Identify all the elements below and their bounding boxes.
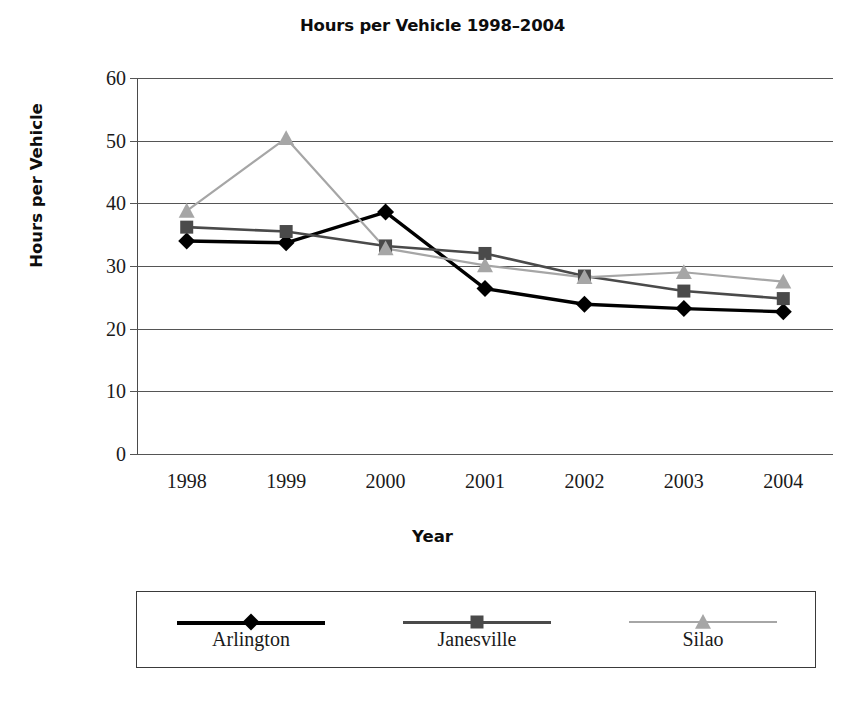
y-axis-tick [130,141,137,142]
x-axis-tick-label: 1999 [241,470,331,493]
plot-area [137,78,833,454]
chart-title: Hours per Vehicle 1998–2004 [0,16,865,35]
y-axis-tick [130,329,137,330]
legend-item-arlington[interactable]: Arlington [151,598,351,660]
y-axis-tick-label: 20 [80,317,126,340]
x-axis-tick-label: 1998 [142,470,232,493]
data-point-marker [178,232,195,249]
chart-page: Hours per Vehicle 1998–2004 Hours per Ve… [0,0,865,702]
y-axis-tick [130,391,137,392]
data-point-marker [775,303,792,320]
legend: ArlingtonJanesvilleSilao [136,591,816,668]
data-point-marker [179,203,195,218]
y-axis-tick-label: 0 [80,443,126,466]
x-axis-tick-label: 2001 [440,470,530,493]
legend-label: Janesville [377,628,577,651]
y-axis-tick [130,454,137,455]
x-axis-tick-label: 2002 [539,470,629,493]
legend-label: Arlington [151,628,351,651]
y-axis-tick-label: 60 [80,67,126,90]
y-axis-tick [130,203,137,204]
x-axis-title: Year [0,527,865,546]
y-axis-tick-label: 30 [80,255,126,278]
x-axis-tick-label: 2004 [738,470,828,493]
data-point-marker [278,130,294,145]
y-axis-tick-label: 10 [80,380,126,403]
y-axis-tick [130,266,137,267]
legend-label: Silao [603,628,803,651]
y-axis-tick-label: 50 [80,129,126,152]
series-plot [137,78,833,454]
data-point-marker [280,225,293,238]
x-axis-tick-label: 2000 [341,470,431,493]
legend-item-silao[interactable]: Silao [603,598,803,660]
data-point-marker [576,296,593,313]
data-point-marker [471,616,484,629]
x-axis-tick-label: 2003 [639,470,729,493]
data-point-marker [677,285,690,298]
data-point-marker [675,300,692,317]
y-axis-title: Hours per Vehicle [27,86,46,286]
data-point-marker [777,292,790,305]
data-point-marker [180,221,193,234]
gridline [137,454,833,455]
y-axis-tick [130,78,137,79]
legend-item-janesville[interactable]: Janesville [377,598,577,660]
y-axis-tick-label: 40 [80,192,126,215]
data-point-marker [695,614,711,629]
